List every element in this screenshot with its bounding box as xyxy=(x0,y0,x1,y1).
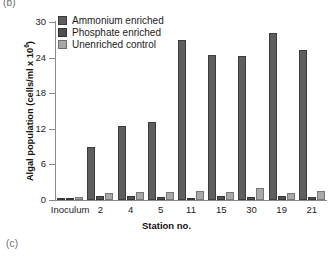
x-axis-tick-label: 15 xyxy=(216,204,227,215)
bar xyxy=(196,191,204,200)
x-axis-line xyxy=(55,200,327,201)
x-axis-tick-label: 5 xyxy=(158,204,163,215)
bar xyxy=(96,196,104,200)
bar xyxy=(127,196,135,200)
y-axis-tick-label: 30 xyxy=(22,16,46,27)
y-axis-tick-label: 18 xyxy=(22,87,46,98)
chart-legend: Ammonium enrichedPhosphate enrichedUnenr… xyxy=(58,14,164,51)
legend-item: Phosphate enriched xyxy=(58,26,164,38)
x-axis-title: Station no. xyxy=(0,220,333,231)
bar xyxy=(287,193,295,200)
legend-swatch-icon xyxy=(58,16,67,25)
legend-label: Ammonium enriched xyxy=(72,15,164,26)
bar xyxy=(308,197,316,200)
bar xyxy=(157,197,165,200)
bar xyxy=(278,196,286,200)
x-axis-tick-label: 4 xyxy=(128,204,133,215)
y-axis-tick xyxy=(49,200,55,201)
legend-swatch-icon xyxy=(58,28,67,37)
panel-label-c: (c) xyxy=(6,238,18,249)
bar xyxy=(256,188,264,200)
y-axis-title: Algal population (cells/ml x 106) xyxy=(23,16,35,206)
legend-label: Unenriched control xyxy=(72,39,156,50)
bar xyxy=(87,147,95,200)
y-axis-tick-label: 24 xyxy=(22,52,46,63)
bar xyxy=(217,196,225,200)
bar xyxy=(118,126,126,200)
x-axis-tick-label: 19 xyxy=(276,204,287,215)
bar xyxy=(247,197,255,200)
bar xyxy=(269,33,277,200)
bar-group xyxy=(206,22,236,200)
bar-group xyxy=(267,22,297,200)
bar xyxy=(187,198,195,200)
bar xyxy=(208,55,216,200)
x-axis-tick-label: 11 xyxy=(186,204,196,215)
algal-population-bar-chart: Algal population (cells/ml x 106) 061218… xyxy=(0,0,333,232)
legend-label: Phosphate enriched xyxy=(72,27,161,38)
bar xyxy=(105,193,113,200)
bar xyxy=(148,122,156,200)
y-axis-tick-label: 12 xyxy=(22,123,46,134)
bar xyxy=(75,197,83,200)
bar-group xyxy=(176,22,206,200)
bar-group xyxy=(297,22,327,200)
x-axis-tick-label: 30 xyxy=(246,204,257,215)
bar xyxy=(226,192,234,200)
bar xyxy=(317,191,325,200)
bar xyxy=(136,192,144,200)
x-axis-tick-label: 2 xyxy=(98,204,103,215)
x-axis-tick-label: 21 xyxy=(307,204,318,215)
bar-group xyxy=(236,22,266,200)
bar xyxy=(178,40,186,200)
y-axis-tick-label: 6 xyxy=(22,158,46,169)
y-axis-tick-label: 0 xyxy=(22,194,46,205)
bar xyxy=(57,198,65,200)
y-axis-title-close: ) xyxy=(25,41,35,44)
bar xyxy=(238,56,246,200)
legend-item: Unenriched control xyxy=(58,39,164,51)
legend-swatch-icon xyxy=(58,40,67,49)
bar xyxy=(66,198,74,200)
x-axis-tick-label: Inoculum xyxy=(51,204,90,215)
bar xyxy=(299,50,307,200)
y-axis-title-exponent: 6 xyxy=(23,44,30,48)
bar xyxy=(166,192,174,200)
legend-item: Ammonium enriched xyxy=(58,14,164,26)
